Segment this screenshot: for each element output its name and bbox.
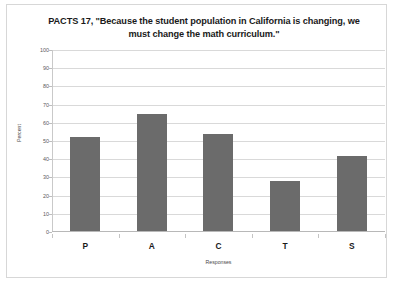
x-axis-tick-mark [385,234,386,238]
bar-s[interactable] [337,156,367,232]
bar-series [52,50,385,232]
x-axis-tick-mark [252,234,253,238]
x-axis-tick-label-a: A [119,234,186,254]
chart-frame: PACTS 17, "Because the student populatio… [6,4,387,278]
y-axis-tick-label: 80 [27,83,49,89]
y-axis-tick-label: 50 [27,138,49,144]
x-axis-tick-mark [185,234,186,238]
x-axis-tick-label-s: S [318,234,385,254]
x-axis-tick-label-p: P [52,234,119,254]
bar-slot [318,50,385,232]
y-axis-tick-labels: 1009080706050403020100 [25,50,49,232]
x-axis-title: Responses [52,259,385,265]
plot-area [52,50,385,232]
chart-title: PACTS 17, "Because the student populatio… [41,15,367,40]
bar-slot [252,50,319,232]
bar-slot [52,50,119,232]
y-axis-tick-label: 0 [27,229,49,235]
bar-p[interactable] [70,137,100,232]
chart-canvas: PACTS 17, "Because the student populatio… [0,0,394,283]
x-axis-line [52,231,385,232]
y-axis-tick-label: 20 [27,193,49,199]
bar-t[interactable] [270,181,300,232]
y-axis-tick-label: 60 [27,120,49,126]
y-axis-tick-label: 100 [27,47,49,53]
y-axis-title: Percent [16,110,22,156]
y-axis-tick-label: 70 [27,102,49,108]
x-axis-tick-label-c: C [185,234,252,254]
x-axis-tick-label-t: T [252,234,319,254]
y-axis-tick-label: 40 [27,156,49,162]
y-axis-tick-label: 30 [27,174,49,180]
x-axis-tick-mark [52,234,53,238]
y-axis-tick-mark [49,232,52,233]
y-axis-tick-label: 90 [27,65,49,71]
y-axis-tick-label: 10 [27,211,49,217]
x-axis-tick-labels: PACTS [52,234,385,254]
x-axis-tick-mark [318,234,319,238]
bar-c[interactable] [203,134,233,232]
x-axis-tick-mark [119,234,120,238]
chart-title-line-1: PACTS 17, "Because the student populatio… [41,15,367,28]
bar-slot [185,50,252,232]
bar-slot [119,50,186,232]
bar-a[interactable] [137,114,167,232]
chart-title-line-2: must change the math curriculum." [41,28,367,41]
